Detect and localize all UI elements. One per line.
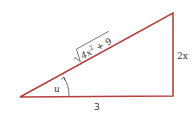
triangle-diagram: u 4x2 + 9 2x 3 — [0, 0, 196, 125]
angle-label: u — [54, 84, 60, 94]
right-triangle — [20, 13, 173, 97]
angle-arc-icon — [64, 78, 69, 96]
adjacent-side-label: 3 — [94, 102, 100, 112]
opposite-side-label: 2x — [177, 51, 188, 61]
arrowhead-icon — [62, 77, 66, 81]
